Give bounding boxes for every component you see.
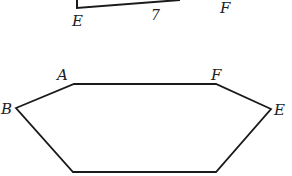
- vertex-label-b: B: [0, 100, 12, 118]
- hexagon-shape: [16, 84, 271, 172]
- vertex-label-a: A: [55, 66, 68, 84]
- top-fragment-edges: [77, 0, 180, 8]
- vertex-label-top-f: F: [219, 0, 231, 17]
- vertex-label-e: E: [273, 101, 285, 119]
- diagram-canvas: E 7 F A F B E: [0, 0, 292, 176]
- side-length-label: 7: [151, 7, 160, 23]
- vertex-label-top-e: E: [71, 12, 83, 30]
- vertex-label-f: F: [210, 66, 222, 84]
- top-fragment-figure: [77, 0, 180, 8]
